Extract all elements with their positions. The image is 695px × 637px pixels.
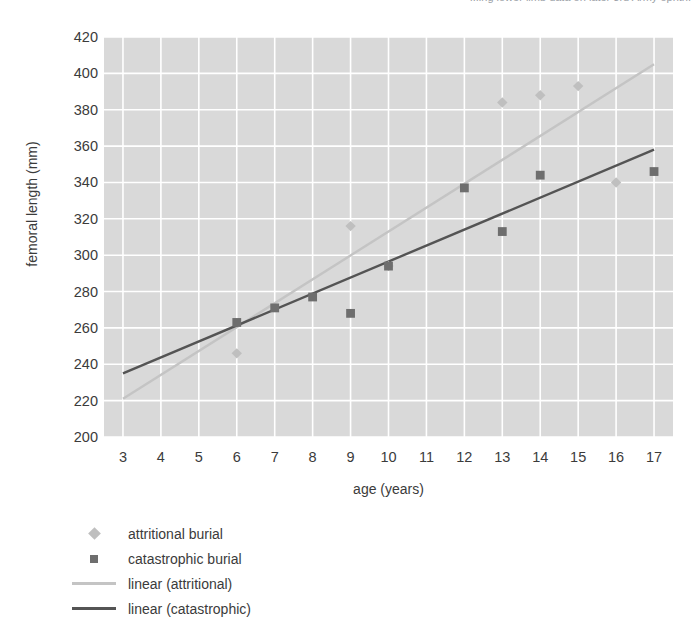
femoral-length-scatter-chart: 200220240260280300320340360380400420 fem…	[0, 0, 695, 637]
x-tick-label: 17	[634, 449, 674, 465]
data-point-square	[346, 309, 355, 318]
y-tick-label: 260	[38, 321, 98, 336]
y-tick-label: 340	[38, 175, 98, 190]
y-tick-label: 360	[38, 139, 98, 154]
x-tick-label: 11	[406, 449, 446, 465]
y-tick-label: 200	[38, 430, 98, 445]
plot-area	[104, 37, 673, 437]
y-tick-label: 220	[38, 394, 98, 409]
legend-item[interactable]: attritional burial	[60, 521, 390, 546]
x-tick-label: 10	[369, 449, 409, 465]
x-tick-label: 15	[558, 449, 598, 465]
legend-key	[60, 582, 128, 585]
data-point-diamond	[611, 177, 621, 187]
x-tick-label: 13	[482, 449, 522, 465]
legend-item[interactable]: linear (catastrophic)	[60, 596, 390, 621]
data-point-square	[536, 171, 545, 180]
legend-diamond-marker-icon	[88, 527, 101, 540]
legend-label: linear (catastrophic)	[128, 601, 251, 617]
data-point-diamond	[232, 348, 242, 358]
y-tick-label: 280	[38, 285, 98, 300]
data-point-diamond	[535, 90, 545, 100]
legend-label: attritional burial	[128, 526, 223, 542]
legend-item[interactable]: catastrophic burial	[60, 546, 390, 571]
x-tick-label: 4	[141, 449, 181, 465]
x-tick-label: 5	[179, 449, 219, 465]
legend-line-marker-icon	[72, 582, 116, 585]
y-axis-title: femoral length (mm)	[24, 94, 40, 314]
data-point-diamond	[573, 81, 583, 91]
x-tick-label: 16	[596, 449, 636, 465]
data-point-square	[460, 184, 469, 193]
legend-line-marker-icon	[72, 607, 116, 610]
chart-legend: attritional burialcatastrophic buriallin…	[60, 521, 390, 621]
y-tick-label: 420	[38, 30, 98, 45]
legend-label: catastrophic burial	[128, 551, 242, 567]
x-tick-label: 9	[331, 449, 371, 465]
data-point-square	[308, 293, 317, 302]
y-tick-label: 240	[38, 357, 98, 372]
data-point-square	[384, 262, 393, 271]
y-tick-label: 320	[38, 212, 98, 227]
x-tick-label: 14	[520, 449, 560, 465]
legend-label: linear (attritional)	[128, 576, 232, 592]
data-series-layer	[104, 37, 673, 437]
x-tick-label: 3	[103, 449, 143, 465]
data-point-square	[498, 227, 507, 236]
x-axis-title: age (years)	[104, 481, 673, 497]
y-tick-label: 380	[38, 103, 98, 118]
data-point-square	[270, 304, 279, 313]
legend-key	[60, 555, 128, 563]
trendline-linear-attritional-	[123, 64, 654, 399]
data-point-square	[232, 318, 241, 327]
y-tick-label: 300	[38, 248, 98, 263]
x-tick-label: 7	[255, 449, 295, 465]
legend-key	[60, 607, 128, 610]
legend-key	[60, 529, 128, 538]
x-tick-label: 8	[293, 449, 333, 465]
legend-square-marker-icon	[90, 555, 98, 563]
x-tick-label: 12	[444, 449, 484, 465]
data-point-diamond	[345, 221, 355, 231]
data-point-square	[650, 167, 659, 176]
x-tick-label: 6	[217, 449, 257, 465]
legend-item[interactable]: linear (attritional)	[60, 571, 390, 596]
y-tick-label: 400	[38, 66, 98, 81]
data-point-diamond	[497, 97, 507, 107]
